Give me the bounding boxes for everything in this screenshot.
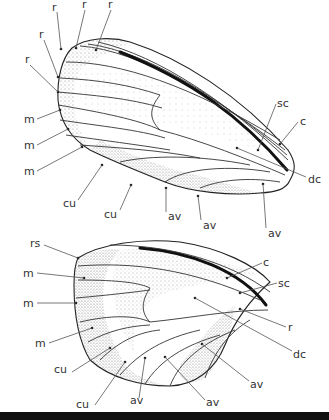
label-dc: dc bbox=[308, 173, 321, 186]
label-dc: dc bbox=[293, 348, 306, 361]
label-av-3: av bbox=[268, 227, 282, 240]
label-c: c bbox=[263, 256, 269, 269]
hindwing: rs m m m cu cu av av av c sc r dc bbox=[23, 237, 306, 411]
label-c: c bbox=[300, 115, 306, 128]
label-av-1: av bbox=[130, 394, 144, 407]
label-cu-1: cu bbox=[54, 363, 67, 376]
label-m-2: m bbox=[24, 139, 35, 152]
label-m-2: m bbox=[23, 297, 34, 310]
label-m-1: m bbox=[23, 267, 34, 280]
label-sc: sc bbox=[277, 97, 289, 110]
label-av-2: av bbox=[206, 396, 220, 409]
label-rs: rs bbox=[30, 237, 41, 250]
label-r-5: r bbox=[25, 53, 30, 66]
label-m-3: m bbox=[35, 337, 46, 350]
label-r-2: r bbox=[82, 0, 87, 11]
wing-venation-diagram: r r r r r m m m cu cu av av av sc c dc bbox=[0, 0, 329, 420]
label-r-1: r bbox=[52, 1, 57, 14]
label-m-3: m bbox=[24, 165, 35, 178]
forewing: r r r r r m m m cu cu av av av sc c dc bbox=[24, 0, 321, 240]
label-av-2: av bbox=[203, 219, 217, 232]
label-r: r bbox=[288, 321, 293, 334]
label-sc: sc bbox=[278, 277, 290, 290]
label-r-3: r bbox=[108, 0, 113, 11]
label-r-4: r bbox=[39, 28, 44, 41]
bottom-edge-bar bbox=[0, 412, 329, 420]
label-cu-2: cu bbox=[76, 398, 89, 411]
label-av-1: av bbox=[168, 210, 182, 223]
label-m-1: m bbox=[24, 113, 35, 126]
label-av-3: av bbox=[250, 378, 264, 391]
label-cu-2: cu bbox=[104, 208, 117, 221]
label-cu-1: cu bbox=[63, 197, 76, 210]
